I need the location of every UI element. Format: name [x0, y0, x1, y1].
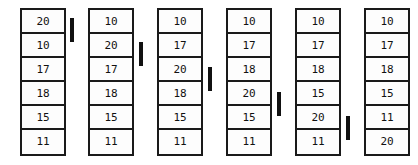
array-cell: 17 [22, 58, 64, 82]
array-cell: 20 [366, 130, 408, 154]
array-cell: 18 [366, 58, 408, 82]
array-cell: 11 [90, 130, 132, 154]
array-cell: 10 [159, 10, 201, 34]
comparison-marker-3 [208, 67, 212, 91]
array-cell: 10 [297, 10, 339, 34]
array-cell: 18 [90, 82, 132, 106]
array-cell: 10 [228, 10, 270, 34]
array-cell: 17 [297, 34, 339, 58]
array-cell: 18 [22, 82, 64, 106]
array-cell: 11 [22, 130, 64, 154]
array-cell: 20 [159, 58, 201, 82]
array-cell: 17 [90, 58, 132, 82]
array-cell: 15 [90, 106, 132, 130]
array-cell: 20 [22, 10, 64, 34]
array-column-1: 201017181511 [20, 8, 66, 156]
comparison-marker-5 [346, 116, 350, 140]
array-column-2: 102017181511 [88, 8, 134, 156]
array-cell: 15 [159, 106, 201, 130]
array-cell: 20 [228, 82, 270, 106]
array-cell: 10 [366, 10, 408, 34]
array-cell: 20 [297, 106, 339, 130]
array-cell: 11 [159, 130, 201, 154]
array-cell: 18 [297, 58, 339, 82]
array-cell: 10 [22, 34, 64, 58]
array-cell: 17 [159, 34, 201, 58]
array-cell: 20 [90, 34, 132, 58]
array-cell: 17 [366, 34, 408, 58]
array-cell: 15 [228, 106, 270, 130]
comparison-marker-2 [139, 42, 143, 66]
comparison-marker-1 [70, 18, 74, 42]
array-column-5: 101718152011 [295, 8, 341, 156]
array-cell: 18 [159, 82, 201, 106]
comparison-marker-4 [277, 92, 281, 116]
array-cell: 15 [366, 82, 408, 106]
array-column-6: 101718151120 [364, 8, 410, 156]
array-cell: 11 [297, 130, 339, 154]
array-cell: 10 [90, 10, 132, 34]
array-column-3: 101720181511 [157, 8, 203, 156]
array-cell: 18 [228, 58, 270, 82]
array-cell: 15 [297, 82, 339, 106]
sorting-trace-diagram: 2010171815111020171815111017201815111017… [0, 0, 418, 165]
array-cell: 17 [228, 34, 270, 58]
array-cell: 11 [366, 106, 408, 130]
array-cell: 15 [22, 106, 64, 130]
array-column-4: 101718201511 [226, 8, 272, 156]
array-cell: 11 [228, 130, 270, 154]
